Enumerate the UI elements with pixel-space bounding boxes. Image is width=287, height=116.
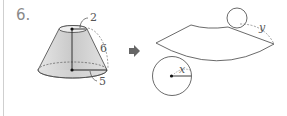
frustum-figure: [38, 18, 108, 81]
small-circle-radius-label: x: [179, 63, 186, 76]
diagram-canvas: 2 6 5 x y: [0, 0, 287, 116]
bottom-radius-label: 5: [99, 75, 106, 88]
right-arrow-icon: [129, 45, 140, 57]
top-radius-label: 2: [90, 11, 97, 24]
slant-label: 6: [100, 42, 107, 55]
frustum-net-figure: [153, 8, 275, 96]
arc-label: y: [258, 21, 266, 34]
